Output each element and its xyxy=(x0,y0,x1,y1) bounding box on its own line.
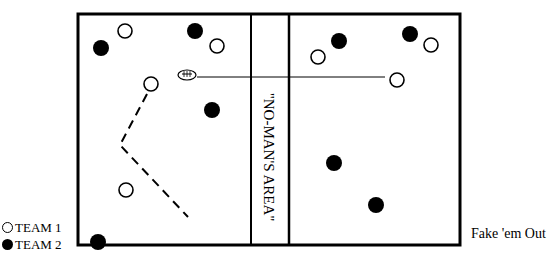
legend-team-1-label: TEAM 1 xyxy=(15,219,62,236)
team-1-player xyxy=(144,77,158,91)
football-icon xyxy=(178,70,196,80)
team-1-player xyxy=(119,183,133,197)
team-2-player xyxy=(90,234,106,250)
team-2-player xyxy=(368,197,384,213)
legend-team-2-label: TEAM 2 xyxy=(15,236,62,253)
open-circle-icon xyxy=(2,222,13,233)
team-2-player xyxy=(402,26,418,42)
team-2-player xyxy=(93,40,109,56)
team-1-player xyxy=(118,24,132,38)
diagram-caption: Fake 'em Out xyxy=(471,226,546,242)
team-2-player xyxy=(331,33,347,49)
legend: TEAM 1 TEAM 2 xyxy=(2,219,62,253)
team-1-player xyxy=(210,39,224,53)
team-1-player xyxy=(390,73,404,87)
team-1-player xyxy=(311,50,325,64)
legend-team-2: TEAM 2 xyxy=(2,236,62,253)
team-2-player xyxy=(326,155,342,171)
filled-circle-icon xyxy=(2,239,13,250)
run-route-dashed xyxy=(120,94,188,217)
no-mans-area-label: "NO-MAN'S AREA" xyxy=(261,93,277,222)
team-2-player xyxy=(187,23,203,39)
legend-team-1: TEAM 1 xyxy=(2,219,62,236)
team-2-player xyxy=(204,102,220,118)
fake-em-out-diagram: "NO-MAN'S AREA" xyxy=(0,0,556,259)
team-1-player xyxy=(424,38,438,52)
